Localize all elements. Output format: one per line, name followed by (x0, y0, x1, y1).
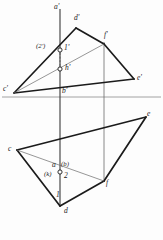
label-1-prime: 1' (64, 44, 69, 52)
label-e: e (147, 110, 150, 118)
label-1: 1 (56, 191, 60, 199)
top-view-group (17, 117, 146, 206)
front-edge-f-e (104, 44, 134, 79)
label-e-prime: e' (137, 74, 142, 82)
front-edge-e-c (14, 79, 134, 93)
label-2-prime: (2') (36, 43, 45, 50)
label-b: (b) (61, 161, 69, 168)
top-edge-f-d (60, 181, 104, 206)
front-point-h-marker (58, 67, 62, 71)
label-a: a (52, 161, 56, 169)
front-point-1-marker (58, 48, 62, 52)
front-edge-d-f (76, 28, 104, 44)
label-f: f (106, 179, 108, 187)
geometry-canvas (0, 0, 163, 240)
top-point-ab-marker (58, 170, 62, 174)
front-view-group (14, 28, 134, 93)
label-d-prime: d' (74, 14, 79, 22)
geometry-drawing: a' d' f' (2') 1' h' c' e' b' e c a (b) (… (0, 0, 163, 240)
label-h-prime: h' (65, 64, 70, 72)
front-edge-c-d (14, 28, 76, 93)
label-a-prime: a' (54, 3, 59, 11)
label-b-prime: b' (62, 87, 67, 95)
label-k: (k) (44, 171, 52, 178)
label-d: d (64, 207, 68, 215)
label-c-prime: c' (3, 85, 8, 93)
label-2: 2 (64, 172, 68, 180)
label-f-prime: f' (104, 31, 108, 39)
top-edge-d-c (17, 150, 60, 206)
label-c: c (8, 145, 11, 153)
